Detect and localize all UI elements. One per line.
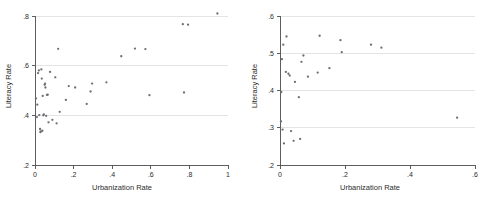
data-point	[38, 69, 40, 71]
data-point	[42, 95, 44, 97]
panel-left-ticks	[32, 16, 229, 169]
panel-right-svg: 0.2.4.6.2.3.4.5.6 Urbanization Rate Lite…	[244, 0, 488, 203]
xticklabel-0: 0	[278, 171, 282, 178]
xticklabel-0: 0	[33, 171, 37, 178]
data-point	[65, 99, 67, 101]
xticklabel-2: .4	[109, 171, 115, 178]
data-point	[280, 91, 282, 93]
data-point	[287, 73, 289, 75]
data-point	[299, 138, 301, 140]
xticklabel-3: .6	[472, 171, 478, 178]
data-point	[59, 111, 61, 113]
data-point	[317, 71, 319, 73]
data-point	[281, 128, 283, 130]
data-point	[44, 82, 46, 84]
data-point	[307, 76, 309, 78]
panel-left-gridlines	[35, 16, 228, 115]
data-point	[47, 94, 49, 96]
data-point	[35, 97, 37, 99]
yticklabel-1: .3	[268, 124, 274, 131]
data-point	[285, 35, 287, 37]
data-point	[89, 90, 91, 92]
panel-left-axes	[35, 16, 228, 165]
data-point	[283, 142, 285, 144]
yticklabel-2: .4	[268, 87, 274, 94]
data-point	[298, 96, 300, 98]
data-point	[40, 68, 42, 70]
xticklabel-2: .4	[407, 171, 413, 178]
data-point	[183, 91, 185, 93]
scatter-plot-figure: 0.2.4.6.81.2.4.6.8 Urbanization Rate Lit…	[0, 0, 488, 203]
data-point	[47, 121, 49, 123]
data-point	[68, 85, 70, 87]
data-point	[120, 55, 122, 57]
data-point	[339, 39, 341, 41]
data-point	[49, 71, 51, 73]
panel-right-xaxis-title: Urbanization Rate	[340, 183, 400, 192]
yticklabel-0: .2	[268, 162, 274, 169]
data-point	[300, 61, 302, 63]
data-point	[290, 130, 292, 132]
xticklabel-5: 1	[226, 171, 230, 178]
panel-right-ticks	[277, 16, 476, 169]
data-point	[45, 115, 47, 117]
yticklabel-1: .4	[23, 112, 29, 119]
panel-left-svg: 0.2.4.6.81.2.4.6.8 Urbanization Rate Lit…	[0, 0, 244, 203]
yticklabel-2: .6	[23, 62, 29, 69]
data-point	[282, 44, 284, 46]
data-point	[38, 114, 40, 116]
data-point	[36, 116, 38, 118]
data-point	[54, 76, 56, 78]
data-point	[289, 74, 291, 76]
panel-left-ticklabels: 0.2.4.6.81.2.4.6.8	[23, 13, 230, 178]
data-point	[294, 81, 296, 83]
panel-left-xaxis-title: Urbanization Rate	[92, 183, 152, 192]
data-point	[86, 103, 88, 105]
panel-right-gridlines	[280, 16, 475, 128]
data-point	[41, 130, 43, 132]
data-point	[187, 24, 189, 26]
data-point	[328, 67, 330, 69]
data-point	[148, 94, 150, 96]
data-point	[280, 120, 282, 122]
data-point	[91, 82, 93, 84]
panel-right-yaxis-title: Literacy Rate	[250, 64, 259, 108]
data-point	[144, 48, 146, 50]
data-point	[341, 51, 343, 53]
data-point	[370, 44, 372, 46]
data-point	[293, 140, 295, 142]
scatter-panel-right: 0.2.4.6.2.3.4.5.6 Urbanization Rate Lite…	[244, 0, 488, 203]
data-point	[55, 122, 57, 124]
data-point	[43, 113, 45, 115]
xticklabel-1: .2	[71, 171, 77, 178]
data-point	[456, 117, 458, 119]
data-point	[105, 81, 107, 83]
xticklabel-1: .2	[342, 171, 348, 178]
yticklabel-3: .8	[23, 13, 29, 20]
data-point	[36, 104, 38, 106]
data-point	[57, 48, 59, 50]
xticklabel-4: .8	[186, 171, 192, 178]
data-point	[302, 54, 304, 56]
yticklabel-0: .2	[23, 162, 29, 169]
data-point	[281, 58, 283, 60]
xticklabel-3: .6	[148, 171, 154, 178]
data-point	[51, 119, 53, 121]
data-point	[319, 35, 321, 37]
panel-right-ticklabels: 0.2.4.6.2.3.4.5.6	[268, 13, 478, 178]
data-point	[39, 128, 41, 130]
data-point	[380, 47, 382, 49]
data-point	[74, 86, 76, 88]
yticklabel-3: .5	[268, 50, 274, 57]
data-point	[134, 47, 136, 49]
data-point	[44, 86, 46, 88]
yticklabel-4: .6	[268, 13, 274, 20]
data-point	[37, 72, 39, 74]
scatter-panel-left: 0.2.4.6.81.2.4.6.8 Urbanization Rate Lit…	[0, 0, 244, 203]
data-point	[216, 12, 218, 14]
data-point	[41, 77, 43, 79]
data-point	[182, 23, 184, 25]
panel-left-yaxis-title: Literacy Rate	[4, 64, 13, 108]
data-point	[285, 71, 287, 73]
